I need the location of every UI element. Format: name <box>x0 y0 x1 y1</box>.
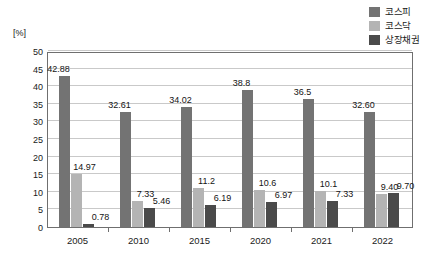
bars-layer: 42.8814.970.7832.617.335.4634.0211.26.19… <box>48 53 412 227</box>
x-axis-tick-label: 2020 <box>250 236 271 246</box>
bar <box>364 112 375 227</box>
plot-area: 42.8814.970.7832.617.335.4634.0211.26.19… <box>47 52 413 228</box>
y-axis-tick-labels: 50454035302520151050 <box>0 52 43 228</box>
x-axis-tick-labels: 200520102015202020212022 <box>47 232 413 252</box>
x-axis-tick-label: 2021 <box>311 236 332 246</box>
legend-swatch-icon <box>369 21 380 31</box>
gridline <box>48 50 412 51</box>
y-axis-tick-label: 30 <box>3 118 43 127</box>
legend-swatch-icon <box>369 35 380 45</box>
legend-item-label: 코스닥 <box>385 21 411 31</box>
y-axis-tick-label: 50 <box>3 48 43 57</box>
y-axis-tick-label: 25 <box>3 136 43 145</box>
legend-item: 상장채권 <box>369 34 420 46</box>
y-axis-tick-label: 45 <box>3 65 43 74</box>
x-axis-tick-label: 2015 <box>189 236 210 246</box>
y-axis-tick-label: 5 <box>3 206 43 215</box>
legend-item: 코스피 <box>369 6 420 18</box>
bar-value-label: 32.60 <box>347 101 381 110</box>
x-axis-tick-label: 2005 <box>67 236 88 246</box>
y-axis-tick-label: 10 <box>3 188 43 197</box>
x-axis-tick-mark <box>108 228 109 232</box>
legend-swatch-icon <box>369 7 380 17</box>
bar <box>376 194 387 227</box>
legend-item-label: 코스피 <box>385 7 411 17</box>
y-axis-unit-label: [%] <box>13 28 26 38</box>
x-axis-tick-label: 2022 <box>372 236 393 246</box>
bar <box>388 193 399 227</box>
y-axis-tick-label: 40 <box>3 83 43 92</box>
y-axis-tick-label: 20 <box>3 153 43 162</box>
x-axis-tick-mark <box>230 228 231 232</box>
x-axis-tick-mark <box>169 228 170 232</box>
chart-legend: 코스피코스닥상장채권 <box>369 6 420 46</box>
x-axis-tick-mark <box>291 228 292 232</box>
bar-group: 32.609.409.70 <box>48 53 414 227</box>
x-axis-tick-mark <box>352 228 353 232</box>
y-axis-tick-label: 15 <box>3 171 43 180</box>
x-axis-tick-label: 2010 <box>128 236 149 246</box>
legend-item-label: 상장채권 <box>385 35 420 45</box>
y-axis-tick-label: 0 <box>3 224 43 233</box>
legend-item: 코스닥 <box>369 20 420 32</box>
y-axis-tick-label: 35 <box>3 100 43 109</box>
bar-value-label: 9.70 <box>389 182 423 191</box>
